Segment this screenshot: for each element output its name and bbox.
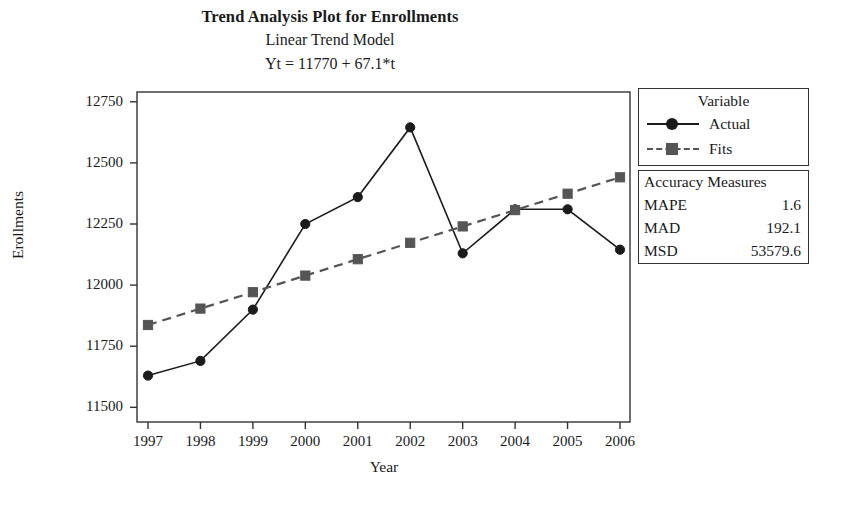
x-tick-label: 2004 <box>485 434 545 449</box>
x-tick-label: 1998 <box>170 434 230 449</box>
data-point-fits <box>563 189 572 198</box>
data-point-actual <box>196 356 205 365</box>
data-point-actual <box>615 245 624 254</box>
x-tick-label: 2000 <box>275 434 335 449</box>
trend-analysis-chart: Trend Analysis Plot for Enrollments Line… <box>0 0 848 506</box>
accuracy-metric-name: MAD <box>644 216 680 239</box>
legend-marker-circle-icon <box>666 118 678 130</box>
data-point-actual <box>353 193 362 202</box>
x-axis-title: Year <box>148 458 620 476</box>
accuracy-rows: MAPE1.6MAD192.1MSD53579.6 <box>639 193 808 262</box>
data-point-fits <box>301 271 310 280</box>
y-tick-label: 12500 <box>53 155 123 170</box>
accuracy-row-mad: MAD192.1 <box>639 216 808 239</box>
x-tick-label: 1997 <box>118 434 178 449</box>
data-point-actual <box>406 123 415 132</box>
y-tick-label: 12750 <box>53 94 123 109</box>
x-tick-label: 2003 <box>433 434 493 449</box>
legend-items: ActualFits <box>639 111 808 161</box>
legend-item-fits[interactable]: Fits <box>639 136 808 161</box>
accuracy-row-mape: MAPE1.6 <box>639 193 808 216</box>
accuracy-row-msd: MSD53579.6 <box>639 239 808 262</box>
data-point-fits <box>511 206 520 215</box>
legend-item-label: Actual <box>701 115 750 133</box>
legend-box: Variable ActualFits <box>638 88 809 166</box>
x-tick-label: 1999 <box>223 434 283 449</box>
accuracy-metric-value: 1.6 <box>782 193 801 216</box>
legend-title: Variable <box>639 89 808 111</box>
accuracy-metric-name: MSD <box>644 239 678 262</box>
series-line-fits <box>148 177 620 325</box>
legend-item-label: Fits <box>701 140 732 158</box>
x-tick-label: 2001 <box>328 434 388 449</box>
y-tick-label: 12000 <box>53 277 123 292</box>
x-tick-label: 2006 <box>590 434 650 449</box>
legend-key-actual-icon <box>645 116 701 132</box>
y-tick-label: 11750 <box>53 338 123 353</box>
data-point-fits <box>196 304 205 313</box>
legend-key-fits-icon <box>645 141 701 157</box>
data-point-fits <box>353 255 362 264</box>
accuracy-metric-name: MAPE <box>644 193 687 216</box>
accuracy-metric-value: 192.1 <box>766 216 801 239</box>
y-tick-label: 11500 <box>53 399 123 414</box>
data-point-actual <box>563 205 572 214</box>
data-point-actual <box>301 219 310 228</box>
accuracy-title: Accuracy Measures <box>639 171 808 193</box>
data-point-actual <box>143 371 152 380</box>
accuracy-measures-box: Accuracy Measures MAPE1.6MAD192.1MSD5357… <box>638 170 809 264</box>
data-point-fits <box>615 173 624 182</box>
x-tick-label: 2005 <box>538 434 598 449</box>
data-point-fits <box>458 222 467 231</box>
plot-frame <box>137 92 630 422</box>
data-point-fits <box>248 288 257 297</box>
accuracy-metric-value: 53579.6 <box>751 239 801 262</box>
x-tick-label: 2002 <box>380 434 440 449</box>
legend-item-actual[interactable]: Actual <box>639 111 808 136</box>
data-point-fits <box>406 238 415 247</box>
data-point-actual <box>458 249 467 258</box>
data-point-fits <box>143 320 152 329</box>
y-tick-label: 12250 <box>53 216 123 231</box>
y-axis-title: Erollments <box>9 145 27 305</box>
legend-marker-square-icon <box>666 143 678 155</box>
data-point-actual <box>248 305 257 314</box>
